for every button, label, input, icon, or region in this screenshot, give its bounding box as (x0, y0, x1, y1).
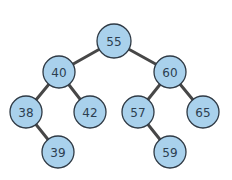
tree-node-65: 65 (187, 96, 219, 128)
node-label: 55 (106, 35, 121, 49)
node-label: 38 (18, 106, 33, 120)
tree-diagram: 554060384257653959 (0, 0, 232, 180)
node-label: 65 (195, 106, 210, 120)
tree-node-59: 59 (154, 136, 186, 168)
node-label: 42 (82, 106, 97, 120)
tree-node-38: 38 (10, 96, 42, 128)
node-label: 60 (162, 66, 177, 80)
tree-node-60: 60 (154, 56, 186, 88)
node-label: 57 (130, 106, 145, 120)
node-label: 59 (162, 146, 177, 160)
node-label: 39 (50, 146, 65, 160)
tree-node-42: 42 (74, 96, 106, 128)
tree-node-39: 39 (42, 136, 74, 168)
tree-node-40: 40 (43, 56, 75, 88)
node-label: 40 (51, 66, 66, 80)
tree-node-55: 55 (97, 24, 131, 58)
tree-node-57: 57 (122, 96, 154, 128)
tree-svg: 554060384257653959 (0, 0, 232, 180)
nodes-group: 554060384257653959 (10, 24, 219, 168)
